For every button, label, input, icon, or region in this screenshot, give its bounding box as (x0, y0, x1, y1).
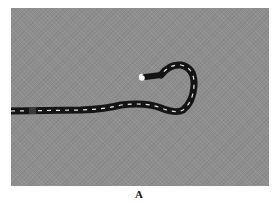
endoscope-photo (11, 8, 269, 186)
scope-shaft (11, 65, 194, 112)
figure-caption: A (0, 188, 278, 200)
endoscope-drawing (11, 8, 269, 186)
scope-band (29, 107, 36, 114)
